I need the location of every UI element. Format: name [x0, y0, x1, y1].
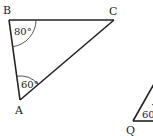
- vertex-label-q: Q: [126, 124, 135, 136]
- angle-label-q: 60: [142, 109, 153, 120]
- geometry-diagram: B C A 80° 60° 60 Q: [0, 0, 153, 136]
- angle-arc-q: [152, 104, 153, 108]
- angle-label-b: 80°: [14, 26, 32, 37]
- angle-label-a: 60°: [21, 79, 39, 90]
- triangle-partial: 60 Q: [126, 82, 153, 136]
- vertex-label-b: B: [3, 4, 11, 17]
- triangle-abc: B C A 80° 60°: [3, 4, 117, 117]
- vertex-label-a: A: [14, 104, 24, 117]
- vertex-label-c: C: [109, 5, 117, 18]
